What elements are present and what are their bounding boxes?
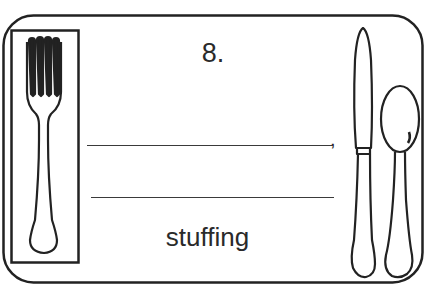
item-number: 8. (163, 38, 263, 69)
word-label: stuffing (120, 222, 295, 253)
blank-line-1[interactable] (87, 145, 332, 146)
comma: , (330, 128, 336, 151)
place-setting-card: 8. , stuffing (0, 0, 426, 300)
fork-icon (27, 37, 61, 253)
knife-icon (352, 28, 375, 277)
blank-line-2[interactable] (91, 197, 334, 198)
spoon-icon (381, 86, 419, 277)
